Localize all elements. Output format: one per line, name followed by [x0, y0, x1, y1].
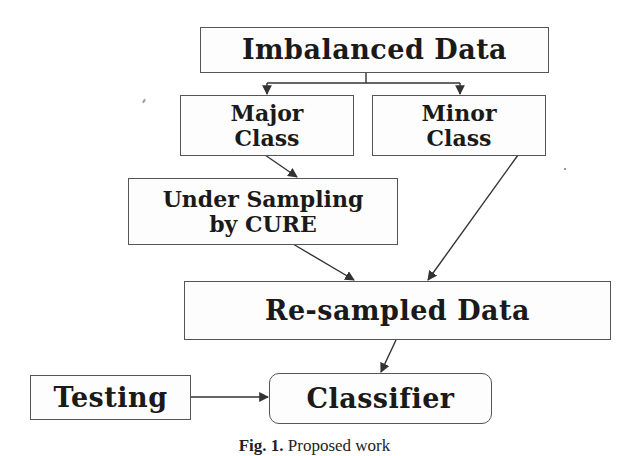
node-minor-class: Minor Class: [372, 95, 546, 156]
node-label-line2: by CURE: [209, 212, 317, 236]
edge-resampled-to-classifier: [381, 340, 396, 372]
node-label-line1: Minor: [422, 101, 497, 125]
node-label-line2: Class: [235, 126, 300, 150]
caption-prefix: Fig. 1.: [239, 436, 284, 455]
edge-undersampling-to-resampled: [293, 244, 354, 280]
node-label-line2: Class: [427, 126, 492, 150]
figure-caption: Fig. 1. Proposed work: [0, 436, 629, 456]
node-classifier: Classifier: [269, 373, 492, 424]
edge-major-to-undersampling: [265, 155, 297, 177]
node-label: Testing: [53, 383, 167, 413]
node-imbalanced-data: Imbalanced Data: [200, 27, 549, 73]
node-major-class: Major Class: [180, 95, 354, 156]
node-label: Re-sampled Data: [265, 296, 530, 326]
node-label-line1: Under Sampling: [163, 187, 364, 211]
caption-text: Proposed work: [288, 436, 390, 455]
edge-minor-to-resampled: [428, 155, 518, 280]
node-label: Classifier: [306, 384, 454, 414]
node-testing: Testing: [30, 375, 191, 420]
node-label: Imbalanced Data: [242, 35, 507, 65]
scan-speck: [564, 168, 566, 170]
node-under-sampling: Under Sampling by CURE: [128, 178, 398, 245]
node-resampled-data: Re-sampled Data: [184, 281, 611, 340]
node-label-line1: Major: [231, 101, 304, 125]
